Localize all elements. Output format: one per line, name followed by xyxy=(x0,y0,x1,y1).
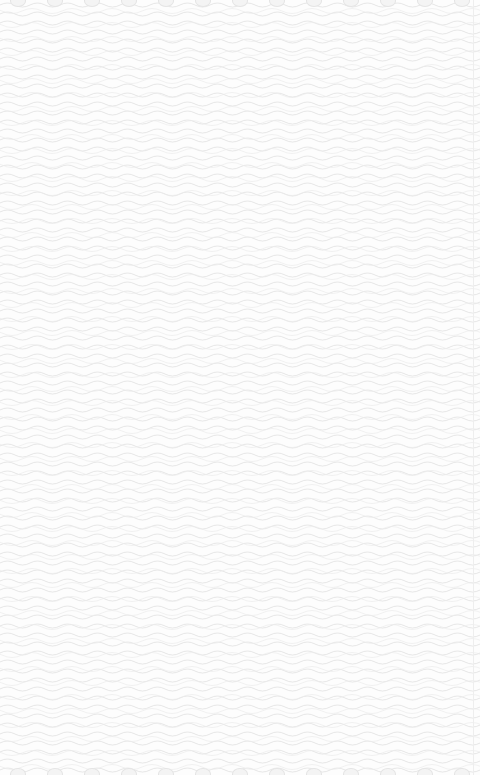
wavy-background-pattern xyxy=(0,0,480,775)
right-border-line xyxy=(473,0,474,775)
blank-textured-page xyxy=(0,0,480,775)
